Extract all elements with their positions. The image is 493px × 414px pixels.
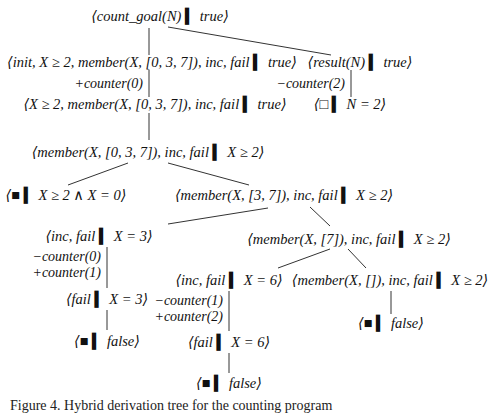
node-member-037: ⟨member(X, [0, 3, 7]), inc, fail ▍ X ≥ 2… [32, 144, 265, 160]
node-member-37: ⟨member(X, [3, 7]), inc, fail ▍ X ≥ 2⟩ [175, 187, 393, 203]
node-result: ⟨result(N) ▍ true⟩ [308, 54, 413, 70]
node-fail-x3: ⟨fail ▍ X = 3⟩ [66, 291, 148, 307]
edge-label-plus-counter1: +counter(1) [32, 265, 101, 281]
edge-label-minus-counter2: −counter(2) [276, 76, 345, 92]
node-init: ⟨init, X ≥ 2, member(X, [0, 3, 7]), inc,… [7, 54, 297, 70]
edge-label-plus-counter2: +counter(2) [154, 309, 223, 325]
edge-member7-inc6 [278, 249, 330, 268]
edge-member37-member7 [310, 207, 330, 226]
node-count-goal: ⟨count_goal(N) ▍ true⟩ [91, 8, 229, 24]
node-false-fail6: ⟨■ ▍ false⟩ [196, 375, 262, 391]
edge-label-counter0: +counter(0) [74, 76, 143, 92]
edge-root-result [168, 27, 331, 55]
node-inc-fail-x3: ⟨inc, fail ▍ X = 3⟩ [45, 228, 152, 244]
edge-label-minus-counter0: −counter(0) [32, 249, 101, 265]
node-success-box: ⟨□ ▍ N = 2⟩ [314, 96, 386, 112]
edge-member37-inc3 [168, 208, 268, 224]
edge-member037-member37 [168, 163, 249, 185]
node-member-7: ⟨member(X, [7]), inc, fail ▍ X ≥ 2⟩ [247, 231, 451, 247]
node-inc-fail-x6: ⟨inc, fail ▍ X = 6⟩ [175, 272, 282, 288]
edge-member037-failbox [68, 163, 128, 185]
figure-caption: Figure 4. Hybrid derivation tree for the… [10, 398, 332, 414]
edge-label-minus-counter1: −counter(1) [154, 293, 223, 309]
edge-member7-memberempty [348, 249, 366, 268]
node-x-geq-2: ⟨X ≥ 2, member(X, [0, 3, 7]), inc, fail … [23, 96, 286, 112]
node-false-fail3: ⟨■ ▍ false⟩ [74, 333, 140, 349]
node-fail-x6: ⟨fail ▍ X = 6⟩ [188, 334, 270, 350]
node-false-member-empty: ⟨■ ▍ false⟩ [358, 315, 424, 331]
node-fail-x0: ⟨■ ▍ X ≥ 2 ∧ X = 0⟩ [6, 187, 127, 203]
node-member-empty: ⟨member(X, []), inc, fail ▍ X ≥ 2⟩ [292, 272, 488, 288]
